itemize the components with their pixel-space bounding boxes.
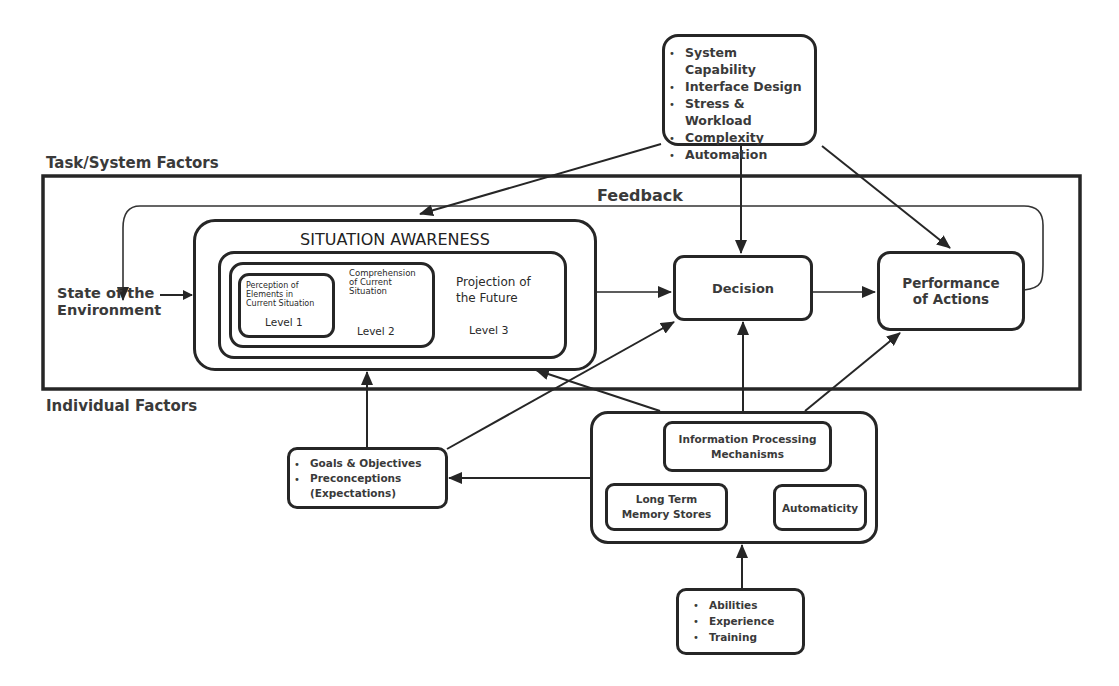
level1-label: Level 1 — [265, 316, 303, 328]
long-term-memory-box: Long Term Memory Stores — [605, 483, 728, 531]
state-of-environment-label: State of the Environment — [57, 285, 161, 319]
abilities-item: Abilities — [689, 597, 802, 613]
abilities-box: Abilities Experience Training — [676, 588, 805, 655]
level1-line: Elements in — [246, 290, 314, 299]
automaticity-box: Automaticity — [773, 484, 867, 531]
decision-label: Decision — [712, 281, 774, 296]
ltm-label: Long Term Memory Stores — [622, 492, 712, 522]
automaticity-label: Automaticity — [782, 502, 858, 514]
ltm-line: Memory Stores — [622, 507, 712, 522]
ipm-line: Information Processing — [679, 432, 817, 447]
state-env-line1: State of the — [57, 285, 153, 302]
performance-line: of Actions — [902, 291, 999, 307]
goals-item: Preconceptions — [290, 471, 445, 486]
abilities-item: Training — [689, 629, 802, 645]
task-system-factors-label: Task/System Factors — [46, 154, 219, 172]
level2-label: Level 2 — [357, 325, 395, 337]
system-factor-item: Stress & Workload — [665, 95, 810, 129]
level1-text: Perception of Elements in Current Situat… — [246, 281, 314, 308]
level3-line: Projection of — [456, 274, 531, 290]
goals-item: Goals & Objectives — [290, 456, 445, 471]
feedback-label: Feedback — [597, 186, 683, 205]
level3-label: Level 3 — [469, 324, 509, 337]
performance-line: Performance — [902, 275, 999, 291]
abilities-item: Experience — [689, 613, 802, 629]
ipm-line: Mechanisms — [679, 447, 817, 462]
sa-title: SITUATION AWARENESS — [196, 230, 594, 249]
system-factor-item: Complexity — [665, 129, 810, 146]
system-factors-box: System Capability Interface Design Stres… — [662, 34, 817, 146]
performance-label: Performance of Actions — [902, 275, 999, 307]
level1-box: Perception of Elements in Current Situat… — [238, 273, 335, 338]
level2-line: Situation — [349, 287, 416, 296]
performance-box: Performance of Actions — [877, 251, 1025, 331]
goals-continuation: (Expectations) — [290, 486, 445, 501]
ltm-line: Long Term — [622, 492, 712, 507]
level1-line: Current Situation — [246, 299, 314, 308]
system-factor-item: Interface Design — [665, 78, 810, 95]
level2-text: Comprehension of Current Situation — [349, 269, 416, 296]
level3-text: Projection of the Future — [456, 274, 531, 306]
state-env-line2: Environment — [57, 302, 161, 319]
individual-factors-label: Individual Factors — [46, 397, 197, 415]
goals-box: Goals & Objectives Preconceptions (Expec… — [287, 447, 448, 509]
information-processing-box: Information Processing Mechanisms — [663, 421, 832, 472]
system-factor-item: Automation — [665, 146, 810, 163]
ipm-label: Information Processing Mechanisms — [679, 432, 817, 462]
level3-line: the Future — [456, 290, 531, 306]
system-factor-item: System Capability — [665, 44, 810, 78]
level1-line: Perception of — [246, 281, 314, 290]
decision-box: Decision — [673, 255, 813, 321]
